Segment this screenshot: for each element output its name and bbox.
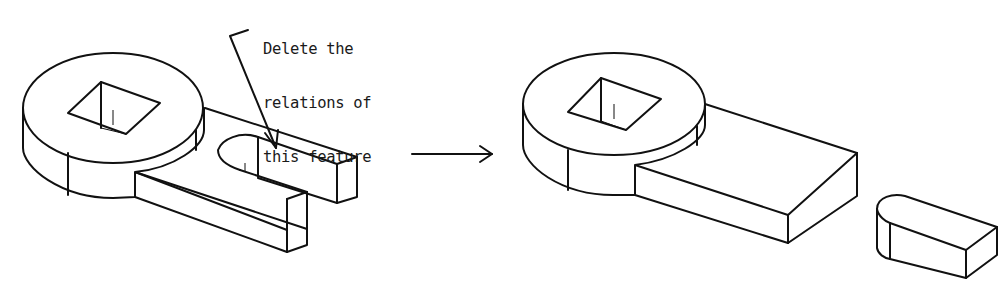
cylinder-hub — [23, 53, 204, 198]
cylinder-hub-after — [523, 53, 705, 195]
annotation-line-1: Delete the — [263, 40, 371, 58]
annotation-text: Delete the relations of this feature — [263, 4, 371, 184]
detached-slot-body — [877, 195, 997, 278]
part-after — [523, 53, 997, 278]
annotation-line-2: relations of — [263, 94, 371, 112]
right-arrow-icon — [412, 146, 492, 162]
diagram-canvas — [0, 0, 1005, 291]
annotation-line-3: this feature — [263, 148, 371, 166]
